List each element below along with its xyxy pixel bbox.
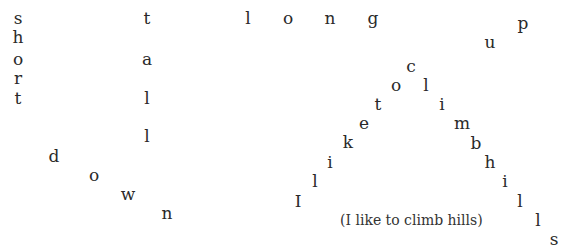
letter-down: n (162, 205, 173, 222)
letter-climb: h (485, 154, 496, 171)
letter-climb: k (343, 134, 353, 151)
letter-climb: I (295, 193, 302, 210)
letter-short: o (13, 51, 23, 68)
letter-short: h (13, 29, 24, 46)
letter-climb: i (439, 96, 444, 113)
letter-climb: t (375, 96, 382, 113)
letter-down: d (49, 148, 60, 165)
letter-climb: m (454, 115, 470, 132)
caption: (I like to climb hills) (340, 213, 483, 227)
letter-up: p (518, 15, 529, 32)
letter-climb: c (406, 58, 416, 75)
letter-short: r (14, 70, 22, 87)
letter-down: w (121, 186, 136, 203)
letter-up: u (485, 34, 496, 51)
letter-tall: t (144, 10, 151, 27)
letter-down: o (89, 167, 99, 184)
letter-tall: a (142, 51, 152, 68)
letter-long: n (325, 10, 336, 27)
letter-short: t (15, 90, 22, 107)
letter-short: s (14, 10, 23, 27)
letter-climb: i (502, 173, 507, 190)
letter-long: o (283, 10, 293, 27)
letter-climb: l (312, 173, 317, 190)
letter-tall: l (144, 128, 149, 145)
letter-climb: o (391, 77, 401, 94)
letter-climb: i (327, 154, 332, 171)
letter-climb: s (550, 231, 559, 246)
letter-climb: b (471, 135, 482, 152)
letter-climb: l (517, 193, 522, 210)
letter-climb: l (535, 212, 540, 229)
letter-climb: e (359, 115, 369, 132)
letter-tall: l (144, 90, 149, 107)
letter-climb: l (423, 77, 428, 94)
letter-long: g (368, 10, 379, 27)
letter-long: l (245, 10, 250, 27)
